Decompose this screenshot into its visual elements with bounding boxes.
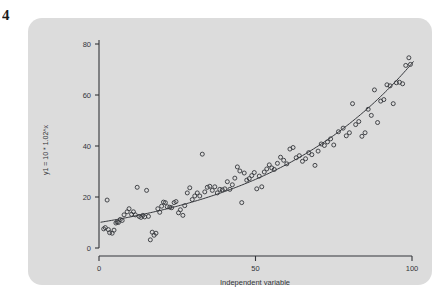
scatter-chart: 020406080 050100 Independent variable y1… (0, 0, 447, 301)
y-tick-label: 0 (87, 244, 91, 253)
y-tick-label: 80 (83, 40, 91, 49)
x-tick-label: 100 (406, 264, 419, 273)
y-tick-label: 60 (83, 91, 91, 100)
y-tick-label: 40 (83, 142, 91, 151)
y-tick-label: 20 (83, 193, 91, 202)
x-tick-label: 50 (251, 264, 259, 273)
y-axis-label: y1 = 10 * 1.02^x (42, 124, 50, 175)
chart-figure: 020406080 050100 Independent variable y1… (0, 0, 447, 301)
x-axis-label: Independent variable (220, 278, 290, 287)
x-tick-label: 0 (97, 264, 101, 273)
